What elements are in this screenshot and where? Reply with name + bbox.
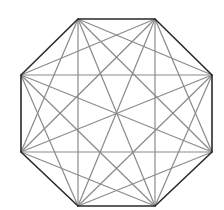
octagon-edge (155, 19, 212, 75)
octagon-diagram (0, 0, 224, 210)
diagonal-line (21, 19, 155, 152)
diagonal-line (21, 152, 155, 206)
diagonal-line (21, 75, 155, 206)
octagon-edge (21, 19, 78, 75)
diagonal-line (78, 19, 212, 152)
diagonal-line (78, 75, 212, 206)
octagon-edge (21, 152, 78, 206)
octagon-edge (155, 152, 212, 206)
diagonal-line (78, 152, 212, 206)
